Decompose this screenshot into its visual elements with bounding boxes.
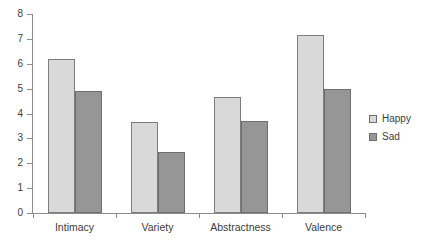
y-tick-label: 4 <box>0 109 23 119</box>
y-tick-label: 8 <box>0 9 23 19</box>
bar-happy-abstractness <box>214 97 241 213</box>
x-category-label-abstractness: Abstractness <box>199 221 282 233</box>
bar-sad-valence <box>324 89 351 213</box>
legend-label: Sad <box>382 132 400 142</box>
plot-area <box>33 14 365 213</box>
legend-item-sad: Sad <box>369 128 421 146</box>
y-tick-label: 5 <box>0 84 23 94</box>
y-tick-label: 7 <box>0 34 23 44</box>
x-tick-mark <box>199 213 200 218</box>
x-category-label-valence: Valence <box>282 221 365 233</box>
y-tick-label: 0 <box>0 208 23 218</box>
y-tick-label: 2 <box>0 158 23 168</box>
bar-chart: 012345678 IntimacyVarietyAbstractnessVal… <box>0 0 421 247</box>
legend-swatch-icon <box>369 115 377 123</box>
bar-happy-variety <box>131 122 158 213</box>
y-tick-label: 6 <box>0 59 23 69</box>
bar-happy-valence <box>297 35 324 213</box>
bar-sad-abstractness <box>241 121 268 213</box>
legend-label: Happy <box>382 114 411 124</box>
x-category-label-intimacy: Intimacy <box>33 221 116 233</box>
x-tick-mark <box>365 213 366 218</box>
bar-sad-intimacy <box>75 91 102 213</box>
bar-sad-variety <box>158 152 185 213</box>
y-tick-label: 1 <box>0 183 23 193</box>
bar-happy-intimacy <box>48 59 75 213</box>
legend-swatch-icon <box>369 133 377 141</box>
x-tick-mark <box>33 213 34 218</box>
chart-legend: HappySad <box>369 110 421 146</box>
y-tick-label: 3 <box>0 133 23 143</box>
x-tick-mark <box>282 213 283 218</box>
legend-item-happy: Happy <box>369 110 421 128</box>
x-category-label-variety: Variety <box>116 221 199 233</box>
x-tick-mark <box>116 213 117 218</box>
